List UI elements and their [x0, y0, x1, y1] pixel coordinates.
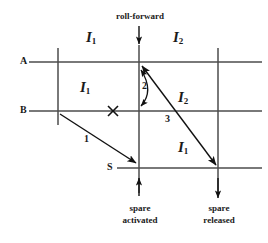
interval-label-a-left: I1 [86, 30, 96, 45]
interval-subscript: 2 [184, 96, 189, 106]
vertical-marker-lines [58, 45, 218, 193]
interval-subscript: 1 [184, 146, 189, 156]
interval-symbol: I [173, 29, 179, 45]
event-label-spare-activated: spare activated [109, 204, 171, 225]
timeline-label-B: B [20, 105, 27, 115]
timeline-label-A: A [20, 56, 27, 66]
event-label-line1: spare [209, 203, 230, 213]
interval-symbol: I [178, 139, 184, 155]
interval-symbol: I [80, 79, 86, 95]
interval-label-s-right: I1 [178, 140, 188, 155]
interval-subscript: 1 [92, 36, 97, 46]
event-label-spare-released: spare released [188, 204, 250, 225]
interval-label-a-right: I2 [173, 30, 183, 45]
arrow-3-number: 3 [165, 114, 170, 124]
timeline-label-S: S [107, 162, 113, 172]
interval-label-b-left: I1 [80, 80, 90, 95]
interval-subscript: 2 [179, 36, 184, 46]
diagram-canvas: A B S I1 I2 I1 I2 I1 1 2 3 roll-forward … [0, 0, 268, 243]
event-label-roll-forward: roll-forward [107, 12, 173, 21]
event-label-line2: activated [109, 216, 171, 225]
event-label-line1: spare [130, 203, 151, 213]
event-label-line1: roll-forward [116, 11, 164, 21]
event-label-line2: released [188, 216, 250, 225]
interval-label-b-right: I2 [178, 90, 188, 105]
interval-symbol: I [86, 29, 92, 45]
interval-symbol: I [178, 89, 184, 105]
arrow-2-number: 2 [142, 81, 147, 91]
event-arrows [139, 26, 218, 198]
arrow-1-number: 1 [84, 134, 89, 144]
interval-subscript: 1 [86, 86, 91, 96]
transition-arrow-1 [60, 114, 136, 163]
